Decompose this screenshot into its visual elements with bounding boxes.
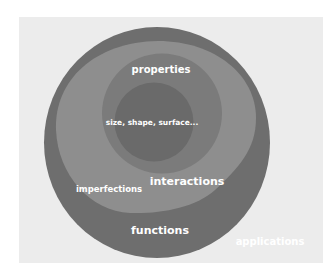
label-properties: properties xyxy=(132,64,191,75)
label-functions: functions xyxy=(131,224,189,237)
label-interactions: interactions xyxy=(150,175,225,188)
label-core: size, shape, surface... xyxy=(106,118,199,127)
label-applications: applications xyxy=(236,236,305,247)
label-imperfections: imperfections xyxy=(76,184,142,194)
